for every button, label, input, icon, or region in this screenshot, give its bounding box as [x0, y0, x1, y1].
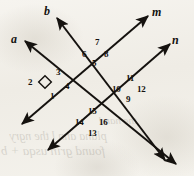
angle-3-label: 3: [56, 68, 60, 77]
angle-6-label: 6: [82, 50, 86, 59]
geometry-figure-page: the handplana ann l the ngryfound grin u…: [0, 0, 194, 176]
angle-12-label: 12: [137, 85, 146, 94]
line-b: [57, 18, 165, 160]
line-a-label: a: [11, 33, 17, 45]
angle-8-label: 8: [104, 50, 108, 59]
angle-9-label: 9: [126, 95, 130, 104]
angle-15-label: 15: [88, 107, 97, 116]
angle-4-label: 4: [65, 82, 69, 91]
angle-2-label: 2: [28, 78, 32, 87]
angle-16-label: 16: [99, 118, 108, 127]
line-b-label: b: [44, 5, 50, 17]
line-m-label: m: [152, 6, 161, 18]
angle-7-label: 7: [95, 38, 99, 47]
line-n: [48, 44, 170, 150]
angle-13-label: 13: [88, 129, 97, 138]
diagram-canvas: [0, 0, 194, 176]
angle-5-label: 5: [92, 59, 96, 68]
angle-10-label: 10: [112, 85, 121, 94]
line-n-label: n: [172, 34, 179, 46]
angle-14-label: 14: [75, 118, 84, 127]
angle-11-label: 11: [126, 74, 134, 83]
angle-1-label: 1: [50, 92, 54, 101]
line-m: [22, 16, 148, 124]
right-angle-mark: [39, 76, 52, 89]
